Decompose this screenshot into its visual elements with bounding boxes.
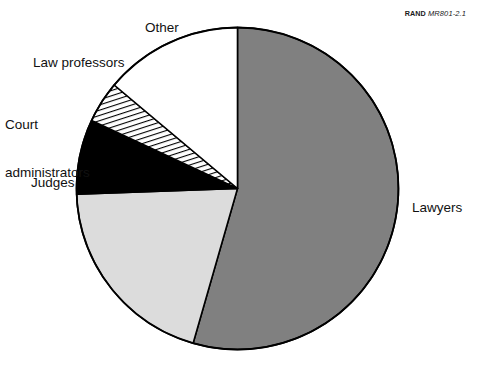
slice-label-judges: Judges xyxy=(31,175,75,191)
pie-slices-group xyxy=(77,28,399,350)
slice-label-court-administrators-line1: Court xyxy=(5,117,90,133)
slice-label-lawyers: Lawyers xyxy=(412,200,462,216)
slice-label-court-administrators: Court administrators xyxy=(5,85,90,212)
slice-label-law-professors: Law professors xyxy=(33,55,125,71)
pie-chart-figure: RAND MR801-2.1 Other Law professors Cour… xyxy=(0,0,479,371)
slice-label-other: Other xyxy=(145,20,179,36)
